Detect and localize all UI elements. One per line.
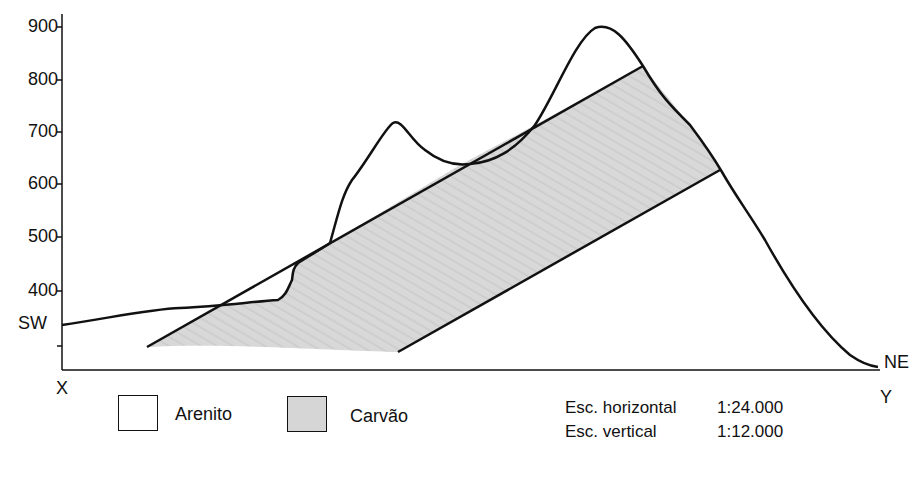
scale-vertical: Esc. vertical 1:12.000 (565, 421, 657, 443)
legend-swatch-carvao (287, 396, 327, 432)
scale-vertical-value: 1:12.000 (717, 421, 783, 443)
scale-horizontal-label: Esc. horizontal (565, 398, 677, 417)
scale-vertical-label: Esc. vertical (565, 422, 657, 441)
scale-horizontal-value: 1:24.000 (717, 397, 783, 419)
legend-label-arenito: Arenito (175, 404, 232, 424)
y-tick-label-500: 500 (28, 226, 58, 247)
ne-label: NE (884, 352, 909, 372)
legend-swatch-arenito (118, 395, 158, 431)
point-x-label: X (56, 378, 68, 398)
y-tick-label-600: 600 (28, 173, 58, 194)
scale-horizontal: Esc. horizontal 1:24.000 (565, 397, 677, 419)
y-tick-label-900: 900 (28, 16, 58, 37)
coal-layer (147, 66, 720, 352)
legend-label-carvao: Carvão (350, 406, 408, 426)
y-tick-label-400: 400 (28, 280, 58, 301)
y-tick-label-800: 800 (28, 69, 58, 90)
sw-label: SW (18, 313, 47, 333)
point-y-label: Y (880, 387, 892, 407)
y-tick-label-700: 700 (28, 121, 58, 142)
